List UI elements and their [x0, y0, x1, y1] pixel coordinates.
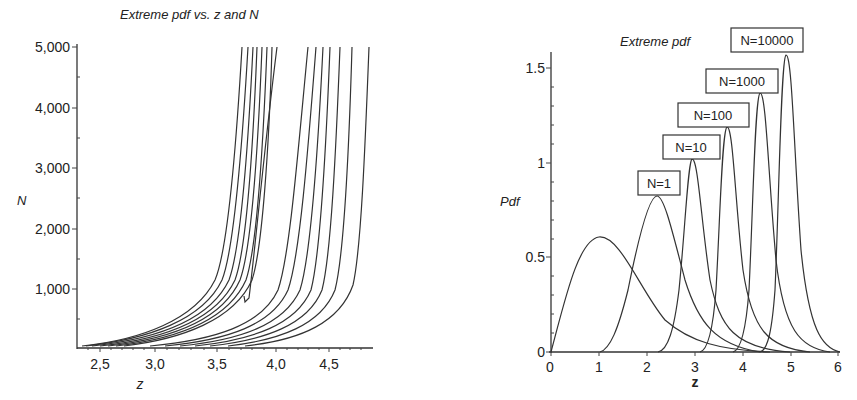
x-tick-label: 5: [787, 359, 795, 375]
x-tick-label: 4: [739, 359, 747, 375]
x-axis-label: z: [692, 374, 699, 390]
x-tick-label: 1: [595, 359, 603, 375]
svg-text:N=100: N=100: [694, 108, 733, 123]
legend-label-n1: N=1: [638, 171, 680, 195]
pdf-curves: [551, 55, 840, 352]
pdf-chart-title: Extreme pdf: [620, 34, 691, 49]
svg-text:N=1000: N=1000: [719, 74, 765, 89]
y-tick-label: 3,000: [35, 160, 70, 176]
legend-label-n1000: N=1000: [706, 69, 778, 93]
x-tick-label: 2: [643, 359, 651, 375]
x-tick-label: 4,0: [266, 356, 286, 372]
pdf-chart: Extreme pdf 1.5 1 0.5 0 Pdf: [500, 28, 842, 390]
y-axis-label: Pdf: [500, 194, 521, 209]
y-axis-label: N: [17, 193, 27, 208]
y-tick-label: 2,000: [35, 221, 70, 237]
x-tick-label: 4,5: [319, 356, 339, 372]
y-tick-label: 1: [537, 155, 545, 171]
y-ticks: [546, 68, 554, 352]
x-tick-label: 3,0: [145, 356, 165, 372]
svg-text:N=10000: N=10000: [740, 33, 793, 48]
x-tick-label: 3,5: [207, 356, 227, 372]
y-ticks: [72, 47, 80, 319]
y-tick-label: 0: [537, 344, 545, 360]
contour-chart: Extreme pdf vs. z and N 5,000 4,000 3,00…: [17, 7, 373, 392]
y-tick-label: 1,000: [35, 281, 70, 297]
x-tick-label: 6: [834, 359, 842, 375]
y-tick-label: 4,000: [35, 100, 70, 116]
y-tick-label: 1.5: [526, 60, 546, 76]
figure: Extreme pdf vs. z and N 5,000 4,000 3,00…: [0, 0, 857, 400]
svg-text:N=1: N=1: [647, 176, 671, 191]
legend-label-n100: N=100: [678, 103, 749, 127]
y-tick-label: 0.5: [526, 249, 546, 265]
contour-chart-title: Extreme pdf vs. z and N: [120, 7, 259, 22]
contour-lines-left-family: [82, 47, 272, 346]
x-tick-label: 3: [691, 359, 699, 375]
svg-text:N=10: N=10: [675, 140, 706, 155]
x-tick-label: 0: [546, 359, 554, 375]
legend-label-n10: N=10: [663, 135, 720, 159]
x-tick-label: 2,5: [90, 356, 110, 372]
y-tick-label: 5,000: [35, 39, 70, 55]
legend-label-n10000: N=10000: [731, 28, 803, 52]
x-axis-label: z: [136, 376, 144, 392]
